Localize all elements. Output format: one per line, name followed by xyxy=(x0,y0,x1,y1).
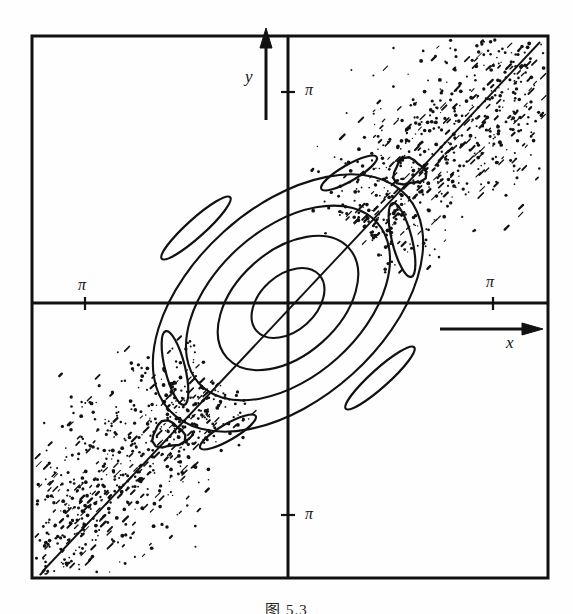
orbit-point xyxy=(204,416,206,418)
orbit-point xyxy=(111,538,113,540)
orbit-point xyxy=(489,40,493,44)
orbit-point xyxy=(177,473,180,476)
orbit-point xyxy=(146,389,148,391)
orbit-point xyxy=(59,536,62,539)
orbit-point xyxy=(402,177,405,180)
orbit-point xyxy=(154,417,157,420)
orbit-point xyxy=(482,87,485,90)
orbit-point xyxy=(202,361,206,365)
orbit-point xyxy=(423,150,426,153)
orbit-point xyxy=(237,414,239,416)
orbit-point xyxy=(186,439,189,442)
orbit-point xyxy=(168,351,170,353)
orbit-point xyxy=(170,491,172,493)
y-arrow-head xyxy=(260,28,272,48)
orbit-point xyxy=(419,201,422,204)
orbit-point xyxy=(155,493,160,498)
orbit-point xyxy=(248,418,250,420)
orbit-point xyxy=(96,520,98,522)
orbit-point xyxy=(94,524,98,528)
orbit-point xyxy=(56,542,59,545)
orbit-point xyxy=(176,366,178,368)
orbit-point xyxy=(56,467,58,469)
orbit-point xyxy=(311,209,315,213)
orbit-point xyxy=(521,73,524,76)
orbit-point xyxy=(61,534,63,536)
orbit-point xyxy=(194,351,196,353)
orbit-point xyxy=(529,75,533,79)
tick-label-y-positive-pi: π xyxy=(305,82,313,98)
orbit-point xyxy=(478,193,483,198)
crescent-lower-right xyxy=(340,341,420,416)
orbit-point xyxy=(465,99,469,103)
orbit-point xyxy=(494,94,497,97)
orbit-point xyxy=(471,160,475,164)
orbit-point xyxy=(151,410,153,412)
orbit-point xyxy=(425,238,428,241)
orbit-point xyxy=(532,60,537,65)
orbit-point xyxy=(63,566,64,568)
orbit-point xyxy=(159,484,162,487)
orbit-point xyxy=(529,100,532,103)
orbit-point xyxy=(352,215,356,219)
orbit-point xyxy=(426,181,430,185)
orbit-point xyxy=(144,372,147,375)
crescent-top xyxy=(317,150,380,196)
orbit-point xyxy=(439,191,441,193)
x-arrow-head xyxy=(522,323,543,335)
orbit-point xyxy=(453,110,456,113)
orbit-point xyxy=(54,525,57,528)
orbit-point xyxy=(388,157,390,159)
orbit-point xyxy=(457,119,461,123)
orbit-point xyxy=(80,401,83,404)
orbit-point xyxy=(166,417,169,420)
orbit-point xyxy=(140,379,143,382)
orbit-point xyxy=(522,166,526,170)
orbit-point xyxy=(523,144,525,146)
orbit-point xyxy=(105,458,107,460)
orbit-point xyxy=(117,411,119,413)
orbit-point xyxy=(178,406,180,408)
orbit-point xyxy=(411,166,413,168)
orbit-point xyxy=(165,430,166,431)
orbit-point xyxy=(134,442,137,445)
orbit-point xyxy=(77,452,80,455)
orbit-point xyxy=(413,195,417,199)
orbit-point xyxy=(99,496,101,498)
orbit-point xyxy=(85,494,89,498)
orbit-point xyxy=(84,442,86,444)
orbit-point xyxy=(157,431,162,436)
orbit-point xyxy=(110,393,113,396)
orbit-point xyxy=(187,455,191,459)
orbit-point xyxy=(374,183,377,186)
orbit-point xyxy=(458,164,461,167)
orbit-point xyxy=(428,129,431,132)
orbit-point xyxy=(421,121,423,123)
orbit-point xyxy=(36,503,39,506)
orbit-point xyxy=(378,101,381,104)
orbit-point xyxy=(76,491,78,493)
orbit-point xyxy=(517,71,520,74)
orbit-point xyxy=(445,156,447,158)
orbit-point xyxy=(217,391,219,393)
orbit-point xyxy=(54,471,56,473)
orbit-point xyxy=(477,168,479,170)
orbit-point xyxy=(440,128,443,131)
orbit-point xyxy=(109,571,110,572)
orbit-point xyxy=(372,230,374,232)
orbit-point xyxy=(365,203,369,207)
orbit-point xyxy=(97,462,99,464)
orbit-point xyxy=(213,398,215,400)
orbit-point xyxy=(515,87,518,90)
orbit-point xyxy=(62,563,64,565)
orbit-point xyxy=(446,81,448,83)
orbit-point xyxy=(239,411,242,414)
orbit-point xyxy=(175,382,177,384)
orbit-point xyxy=(69,495,71,497)
orbit-point xyxy=(434,55,437,58)
orbit-point xyxy=(435,117,438,120)
orbit-point xyxy=(192,414,195,417)
orbit-point xyxy=(532,139,536,143)
orbit-point xyxy=(349,169,353,173)
orbit-point xyxy=(162,383,166,387)
